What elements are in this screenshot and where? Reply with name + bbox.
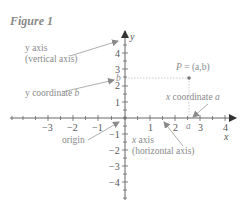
x-tick-neg1: −1 — [92, 122, 103, 133]
x-tick-3: 3 — [198, 122, 203, 133]
x-axis-annotation-line2: (horizontal axis) — [132, 146, 195, 157]
coordinate-plane-figure: Figure 1 −3 −2 −1 1 — [0, 0, 248, 212]
a-mark: a — [186, 121, 191, 131]
x-tick-neg3: −3 — [42, 122, 53, 133]
y-tick-neg2: −2 — [109, 145, 120, 156]
y-tick-4: 4 — [115, 48, 120, 59]
b-mark: b — [116, 73, 121, 83]
x-tick-2: 2 — [173, 122, 178, 133]
origin-annotation: origin — [62, 135, 85, 145]
x-tick-neg2: −2 — [67, 122, 78, 133]
x-axis-label: x — [223, 131, 229, 142]
y-tick-neg3: −3 — [109, 161, 120, 172]
figure-title: Figure 1 — [9, 14, 53, 28]
y-coordinate-annotation-arrow — [62, 80, 114, 92]
x-axis: −3 −2 −1 1 2 3 4 x a — [10, 115, 236, 142]
y-axis: 4 3 2 1 −1 −2 −3 −4 y b — [109, 31, 135, 200]
x-tick-1: 1 — [148, 122, 153, 133]
x-coordinate-annotation-arrow — [193, 104, 208, 117]
x-coordinate-annotation-text: x coordinate a — [165, 92, 220, 102]
y-tick-1: 1 — [115, 97, 120, 108]
y-axis-annotation-line2: (vertical axis) — [25, 54, 78, 65]
y-tick-neg4: −4 — [109, 177, 120, 188]
point-p — [187, 76, 191, 80]
y-axis-annotation-arrow — [70, 41, 118, 56]
x-axis-annotation-line1: x axis — [131, 135, 154, 145]
origin-point — [123, 116, 127, 120]
y-axis-label: y — [129, 31, 135, 42]
y-tick-neg1: −1 — [109, 129, 120, 140]
y-axis-annotation-line1: y axis — [25, 43, 48, 53]
point-p-label: P = (a,b) — [175, 62, 210, 73]
